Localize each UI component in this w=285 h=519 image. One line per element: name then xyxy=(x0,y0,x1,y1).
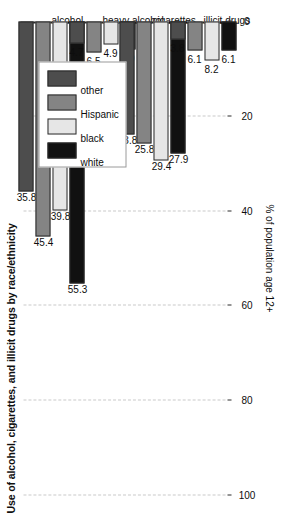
bar-value-label: 35.8 xyxy=(16,191,35,202)
chart-title: Use of alcohol, cigarettes, and illicit … xyxy=(4,223,16,513)
legend-swatch xyxy=(47,142,76,158)
bar-row: 3.8 xyxy=(170,21,185,495)
bar-row: 29.4 xyxy=(153,21,168,495)
bar-row: 25.8 xyxy=(136,21,151,495)
axis-tick-label: 20 xyxy=(241,110,252,121)
bar[interactable] xyxy=(153,21,168,160)
bar[interactable] xyxy=(18,21,33,191)
axis-tick-label: 40 xyxy=(241,205,252,216)
legend-swatch xyxy=(47,70,76,86)
bar-row: 8.2 xyxy=(204,21,219,495)
axis-tick-label: 100 xyxy=(238,490,255,501)
bar-row: 6.1 xyxy=(221,21,236,495)
bar-group: 3.86.18.26.1 xyxy=(175,21,226,495)
legend-label: Hispanic xyxy=(80,108,118,119)
bar-value-label: 45.4 xyxy=(33,237,52,248)
legend-item[interactable]: other xyxy=(47,68,119,86)
bar[interactable] xyxy=(204,21,219,60)
legend-label: white xyxy=(80,156,103,167)
legend-label: other xyxy=(80,84,103,95)
bar[interactable] xyxy=(86,21,101,52)
legend-swatch xyxy=(47,118,76,134)
axis-tick-label: 80 xyxy=(241,395,252,406)
bar[interactable] xyxy=(170,21,185,39)
bar-value-label: 25.8 xyxy=(134,144,153,155)
bar[interactable] xyxy=(221,21,236,50)
axis-title: % of population age 12+ xyxy=(263,204,274,312)
bar-value-label: 39.8 xyxy=(50,210,69,221)
bar-value-label: 3.8 xyxy=(170,43,184,54)
bar-value-label: 6.1 xyxy=(221,53,235,64)
bar-value-label: 4.9 xyxy=(103,48,117,59)
legend-swatch xyxy=(47,94,76,110)
bar[interactable] xyxy=(103,21,118,44)
bar[interactable] xyxy=(187,21,202,50)
bar-value-label: 4.7 xyxy=(69,47,83,58)
axis-tick-label: 60 xyxy=(241,300,252,311)
chart-legend: whiteblackHispanicother xyxy=(38,61,126,167)
bar-row: 6.1 xyxy=(187,21,202,495)
bar-value-label: 8.2 xyxy=(204,63,218,74)
bar-row: 35.8 xyxy=(18,21,33,495)
legend-label: black xyxy=(80,132,103,143)
chart-canvas: Use of alcohol, cigarettes, and illicit … xyxy=(0,0,285,519)
bar[interactable] xyxy=(69,21,84,43)
bar[interactable] xyxy=(136,21,151,143)
bar-group: 23.825.829.427.9 xyxy=(124,21,175,495)
bar-value-label: 6.1 xyxy=(187,53,201,64)
bar-value-label: 29.4 xyxy=(151,161,170,172)
